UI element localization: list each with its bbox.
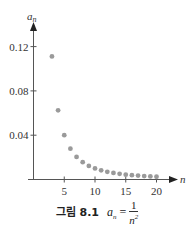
data-point [154, 174, 159, 179]
caption-equation: an = 1 n2 [107, 205, 138, 219]
data-point [136, 173, 141, 178]
x-axis-arrow-icon [169, 176, 178, 183]
y-ticks: 0.040.080.12 [9, 41, 36, 142]
caption-fraction: 1 n2 [129, 200, 138, 226]
data-point [130, 173, 135, 178]
data-point [50, 54, 55, 59]
x-tick-label: 10 [90, 185, 102, 197]
axes [28, 30, 172, 180]
data-point [56, 108, 61, 113]
data-point [117, 171, 122, 176]
data-point [105, 169, 110, 174]
data-point [93, 166, 98, 171]
data-point [99, 168, 104, 173]
x-tick-label: 20 [151, 185, 163, 197]
x-tick-label: 15 [120, 185, 132, 197]
data-point [62, 133, 67, 138]
y-axis-label: an [27, 10, 37, 24]
caption-prefix: 그림 8.1 [56, 206, 99, 219]
data-point [86, 163, 91, 168]
y-tick-label: 0.08 [9, 85, 29, 97]
data-point [68, 146, 73, 151]
data-point [123, 172, 128, 177]
x-axis-label: n [180, 173, 186, 185]
x-tick-label: 5 [62, 185, 68, 197]
sequence-scatter-plot: an n 0.040.080.12 5101520 [0, 0, 194, 200]
data-point [142, 174, 147, 179]
data-point [80, 160, 85, 165]
y-tick-label: 0.12 [9, 41, 28, 53]
y-tick-label: 0.04 [9, 129, 29, 141]
data-point [148, 174, 153, 179]
data-point [74, 155, 79, 160]
data-point [111, 171, 116, 176]
data-points [50, 54, 159, 179]
figure-caption: 그림 8.1 an = 1 n2 [0, 200, 194, 226]
